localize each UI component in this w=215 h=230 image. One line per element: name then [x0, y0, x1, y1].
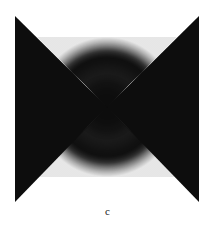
figure-caption-label: c — [0, 204, 215, 218]
conoscopic-interference-figure — [0, 0, 215, 230]
figure-container: c — [0, 0, 215, 230]
